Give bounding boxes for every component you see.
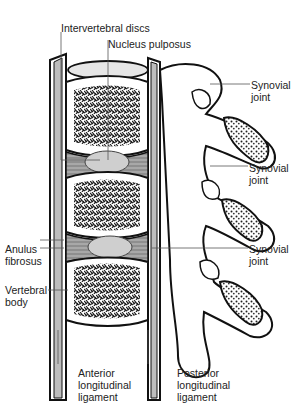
intervertebral-discs-label: Intervertebral discs bbox=[61, 22, 150, 34]
spine-diagram bbox=[0, 0, 306, 419]
synovial-joint-label-3: Synovial joint bbox=[249, 243, 289, 267]
posterior-longitudinal-ligament-label: Posterior longitudinal ligament bbox=[177, 367, 230, 403]
synovial-joint-label-2: Synovial joint bbox=[249, 162, 289, 186]
synovial-joint-label-1: Synovial joint bbox=[251, 79, 291, 103]
anterior-longitudinal-ligament-label: Anterior longitudinal ligament bbox=[78, 367, 131, 403]
nucleus-pulposus-label: Nucleus pulposus bbox=[108, 38, 191, 50]
anulus-fibrosus-label: Anulus fibrosus bbox=[5, 243, 42, 267]
vertebral-body-2 bbox=[66, 172, 148, 238]
nucleus-pulposus bbox=[85, 151, 129, 173]
vertebral-body-3 bbox=[66, 258, 148, 327]
vertebral-body-label: Vertebral body bbox=[5, 284, 47, 308]
vertebral-body-1 bbox=[66, 76, 148, 156]
